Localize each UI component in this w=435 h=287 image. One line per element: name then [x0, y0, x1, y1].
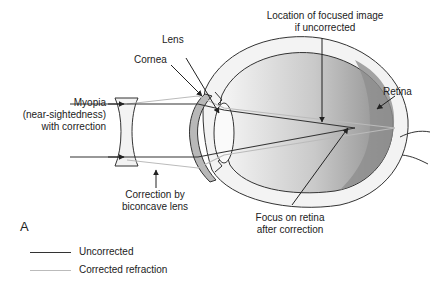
retina-label: Retina [383, 86, 412, 98]
lens-label: Lens [162, 34, 184, 46]
focused-line-2: if uncorrected [245, 22, 405, 34]
focused-image-label: Location of focused image if uncorrected [245, 10, 405, 34]
focused-line-1: Location of focused image [245, 10, 405, 22]
legend-label-corrected: Corrected refraction [79, 264, 167, 276]
panel-label: A [20, 219, 29, 234]
legend-swatch-uncorrected [30, 252, 71, 253]
myopia-line-3: with correction [8, 121, 106, 133]
correction-line-1: Correction by [110, 189, 200, 201]
eye-diagram [0, 0, 435, 287]
correction-line-2: biconcave lens [110, 201, 200, 213]
myopia-line-1: Myopia [8, 97, 106, 109]
focus-retina-label: Focus on retina after correction [245, 212, 335, 236]
cornea-label: Cornea [134, 54, 167, 66]
myopia-label: Myopia (near-sightedness) with correctio… [8, 97, 106, 133]
biconcave-lens [115, 98, 138, 166]
eyeball [203, 37, 430, 208]
focus-line-1: Focus on retina [245, 212, 335, 224]
correction-label: Correction by biconcave lens [110, 189, 200, 213]
myopia-line-2: (near-sightedness) [8, 109, 106, 121]
focus-line-2: after correction [245, 224, 335, 236]
legend-swatch-corrected [30, 270, 71, 271]
legend-label-uncorrected: Uncorrected [79, 246, 133, 258]
